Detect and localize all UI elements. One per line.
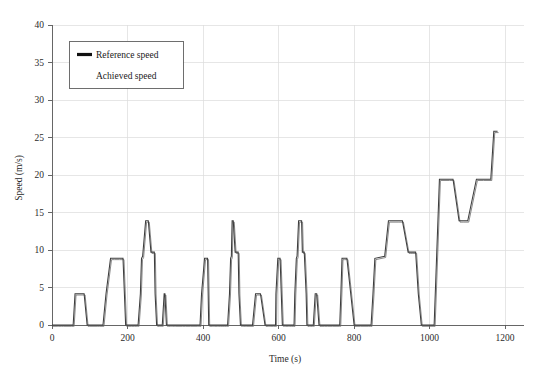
y-axis-title: Speed (m/s): [14, 155, 25, 201]
y-tick-label: 0: [39, 320, 44, 330]
x-axis-title: Time (s): [269, 354, 301, 365]
x-tick-label: 1200: [496, 333, 515, 343]
x-tick-label: 200: [120, 333, 135, 343]
chart-figure: 0510152025303540 020040060080010001200 S…: [0, 0, 537, 372]
y-tick-label: 5: [39, 283, 44, 293]
x-tick-label: 400: [196, 333, 211, 343]
y-tick-label: 35: [35, 58, 45, 68]
y-tick-label: 10: [35, 245, 45, 255]
x-tick-label: 800: [347, 333, 362, 343]
y-tick-label: 25: [35, 133, 45, 143]
y-tick-label: 15: [35, 208, 45, 218]
legend-label-achieved-speed: Achieved speed: [96, 71, 157, 81]
chart-legend: Reference speed Achieved speed: [69, 41, 183, 88]
x-tick-label: 1000: [420, 333, 439, 343]
y-tick-label: 40: [35, 20, 45, 30]
y-tick-label: 30: [35, 95, 45, 105]
y-tick-label: 20: [35, 170, 45, 180]
legend-label-reference-speed: Reference speed: [96, 50, 159, 60]
x-tick-label: 0: [50, 333, 55, 343]
x-tick-label: 600: [271, 333, 286, 343]
speed-profile-chart: 0510152025303540 020040060080010001200 S…: [0, 0, 537, 372]
